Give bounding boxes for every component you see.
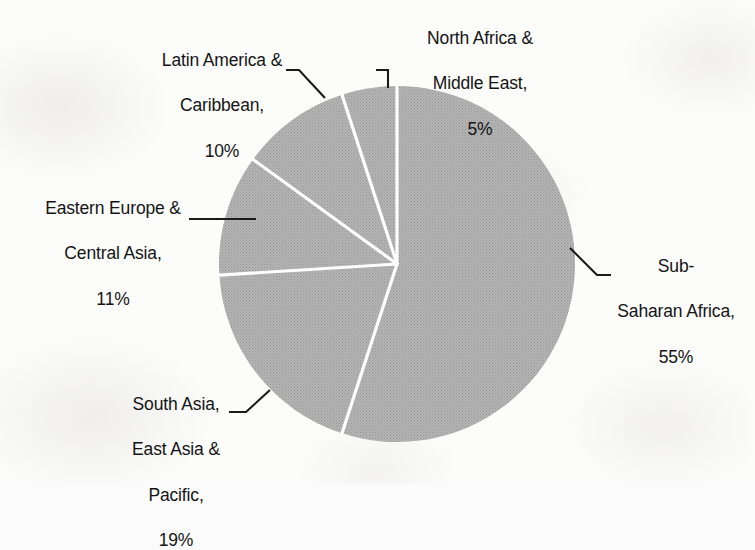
label-line-1: Eastern Europe & bbox=[8, 197, 218, 220]
label-line-3: Pacific, bbox=[92, 484, 260, 507]
label-line-3-value: 10% bbox=[122, 140, 322, 163]
label-line-1: South Asia, bbox=[92, 393, 260, 416]
label-line-4-value: 19% bbox=[92, 529, 260, 550]
label-line-2: Middle East, bbox=[382, 72, 578, 95]
label-line-2: Saharan Africa, bbox=[600, 300, 752, 323]
label-line-3-value: 5% bbox=[382, 118, 578, 141]
label-line-3-value: 11% bbox=[8, 288, 218, 311]
slice-label-sub-saharan-africa: Sub- Saharan Africa, 55% bbox=[600, 232, 752, 391]
label-line-3-value: 55% bbox=[600, 346, 752, 369]
slice-label-south-asia-east-asia-pacific: South Asia, East Asia & Pacific, 19% bbox=[92, 370, 260, 550]
slice-label-eastern-europe-central-asia: Eastern Europe & Central Asia, 11% bbox=[8, 174, 218, 333]
label-line-2: East Asia & bbox=[92, 438, 260, 461]
label-line-1: Latin America & bbox=[122, 49, 322, 72]
label-line-1: Sub- bbox=[600, 255, 752, 278]
label-line-2: Caribbean, bbox=[122, 94, 322, 117]
label-line-2: Central Asia, bbox=[8, 242, 218, 265]
slice-label-north-africa-middle-east: North Africa & Middle East, 5% bbox=[382, 4, 578, 163]
label-line-1: North Africa & bbox=[382, 27, 578, 50]
slice-label-latin-america-caribbean: Latin America & Caribbean, 10% bbox=[122, 26, 322, 185]
